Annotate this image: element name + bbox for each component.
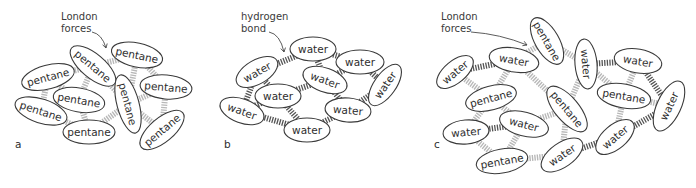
molecule-pentane: pentane <box>63 120 115 144</box>
molecule-label: water <box>298 43 329 55</box>
molecule-water: water <box>497 106 552 142</box>
molecule-water: water <box>431 49 479 94</box>
molecule-water: water <box>284 118 330 142</box>
panel-label: a <box>15 138 21 150</box>
molecule-label: water <box>345 56 376 68</box>
annotation-label: hydrogen <box>241 11 288 22</box>
molecule-water: water <box>590 113 641 161</box>
annotation-label: London <box>61 11 98 22</box>
molecule-water: water <box>442 118 490 146</box>
panel-label: b <box>224 138 231 150</box>
molecule-water: water <box>487 44 540 76</box>
annotation-label: bond <box>241 23 266 34</box>
molecule-water: water <box>612 45 663 77</box>
annotation-label: forces <box>61 23 91 34</box>
annotation-label: forces <box>441 23 471 34</box>
molecule-pentane: pentane <box>595 79 652 112</box>
molecule-label: water <box>292 124 323 136</box>
molecule-label: pentane <box>67 126 110 138</box>
molecule-water: water <box>336 50 384 74</box>
molecule-layer: pentanepentanepentanepentanepentanepenta… <box>12 12 692 178</box>
intermolecular-forces-diagram: pentanepentanepentanepentanepentanepenta… <box>0 0 696 188</box>
molecule-water: water <box>535 131 588 178</box>
leader-arrow <box>471 32 527 45</box>
molecule-pentane: pentane <box>109 38 165 72</box>
molecule-water: water <box>255 84 301 108</box>
molecule-water: water <box>290 37 336 61</box>
molecule-pentane: pentane <box>474 145 529 178</box>
annotation-label: London <box>441 11 478 22</box>
molecule-label: water <box>263 90 294 102</box>
panel-label: c <box>434 138 440 150</box>
